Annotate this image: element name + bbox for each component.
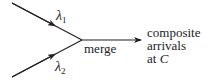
arrow-icon [12, 54, 55, 77]
arrow-icon [12, 3, 55, 26]
input-stream-2: λ2 [12, 40, 82, 77]
merge-label: merge [84, 41, 116, 56]
merge-diagram: λ1 λ2 merge composite arrivals at C [0, 0, 212, 80]
output-label: composite arrivals at C [147, 25, 201, 66]
input-stream-1: λ1 [12, 3, 82, 40]
lambda-1-label: λ1 [55, 8, 67, 25]
lambda-2-label: λ2 [54, 59, 66, 76]
output-line-3: at C [147, 51, 169, 66]
